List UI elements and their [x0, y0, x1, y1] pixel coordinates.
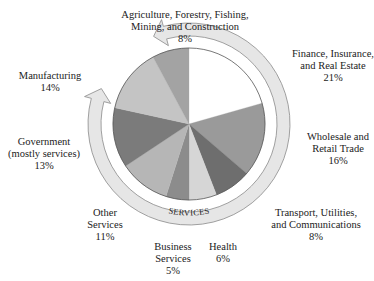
- label-percent: 13%: [0, 160, 88, 172]
- label-percent: 16%: [298, 155, 374, 167]
- label-wholesale: Wholesale and Retail Trade 16%: [298, 131, 374, 167]
- label-text: Wholesale and: [298, 131, 374, 143]
- label-other-services: Other Services 11%: [80, 207, 130, 243]
- label-percent: 21%: [283, 72, 374, 84]
- label-text: Government: [0, 136, 88, 148]
- label-percent: 6%: [203, 253, 243, 265]
- label-text: Services: [80, 219, 130, 231]
- label-text: Other: [80, 207, 130, 219]
- label-percent: 11%: [80, 231, 130, 243]
- label-health: Health 6%: [203, 241, 243, 265]
- label-business-services: Business Services 5%: [148, 241, 198, 277]
- pie-slices: [113, 48, 265, 200]
- label-percent: 14%: [2, 82, 98, 94]
- label-text: Health: [203, 241, 243, 253]
- label-text: Finance, Insurance,: [283, 48, 374, 60]
- services-label: SERVICES: [168, 205, 210, 217]
- label-text: Retail Trade: [298, 143, 374, 155]
- label-text: (mostly services): [0, 148, 88, 160]
- label-agriculture: Agriculture, Forestry, Fishing, Mining, …: [100, 9, 270, 45]
- label-finance: Finance, Insurance, and Real Estate 21%: [283, 48, 374, 84]
- label-percent: 5%: [148, 265, 198, 277]
- label-percent: 8%: [100, 33, 270, 45]
- label-text: Agriculture, Forestry, Fishing,: [100, 9, 270, 21]
- label-transport: Transport, Utilities, and Communications…: [258, 207, 374, 243]
- label-text: Transport, Utilities,: [258, 207, 374, 219]
- label-text: Services: [148, 253, 198, 265]
- label-text: Manufacturing: [2, 70, 98, 82]
- label-manufacturing: Manufacturing 14%: [2, 70, 98, 94]
- label-percent: 8%: [258, 231, 374, 243]
- label-text: and Communications: [258, 219, 374, 231]
- label-text: Business: [148, 241, 198, 253]
- label-text: and Real Estate: [283, 60, 374, 72]
- label-text: Mining, and Construction: [100, 21, 270, 33]
- label-government: Government (mostly services) 13%: [0, 136, 88, 172]
